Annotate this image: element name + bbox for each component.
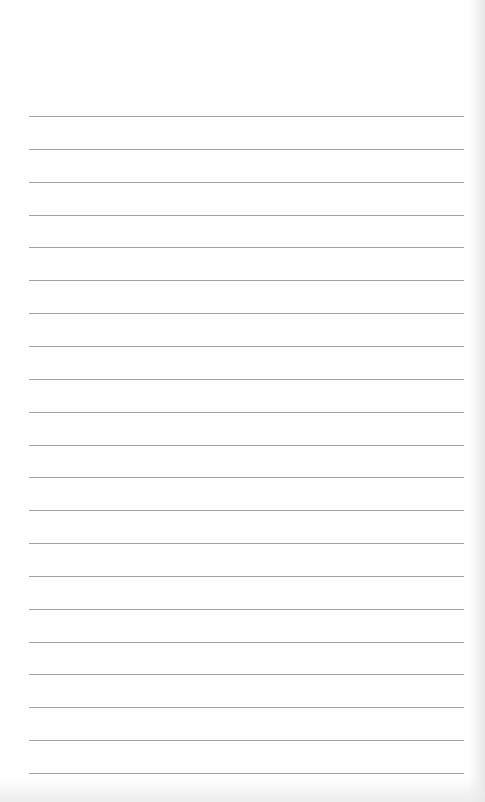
ruled-lines xyxy=(0,0,485,802)
ruled-line xyxy=(29,280,464,281)
ruled-line xyxy=(29,445,464,446)
ruled-line xyxy=(29,773,464,774)
ruled-line xyxy=(29,674,464,675)
ruled-line xyxy=(29,510,464,511)
ruled-line xyxy=(29,116,464,117)
lined-paper-page xyxy=(0,0,485,802)
ruled-line xyxy=(29,379,464,380)
ruled-line xyxy=(29,346,464,347)
ruled-line xyxy=(29,609,464,610)
ruled-line xyxy=(29,576,464,577)
bottom-edge-shadow xyxy=(0,780,485,802)
ruled-line xyxy=(29,313,464,314)
ruled-line xyxy=(29,642,464,643)
ruled-line xyxy=(29,412,464,413)
right-edge-shadow xyxy=(469,0,485,802)
ruled-line xyxy=(29,182,464,183)
ruled-line xyxy=(29,477,464,478)
ruled-line xyxy=(29,247,464,248)
ruled-line xyxy=(29,149,464,150)
ruled-line xyxy=(29,740,464,741)
ruled-line xyxy=(29,543,464,544)
ruled-line xyxy=(29,707,464,708)
ruled-line xyxy=(29,215,464,216)
